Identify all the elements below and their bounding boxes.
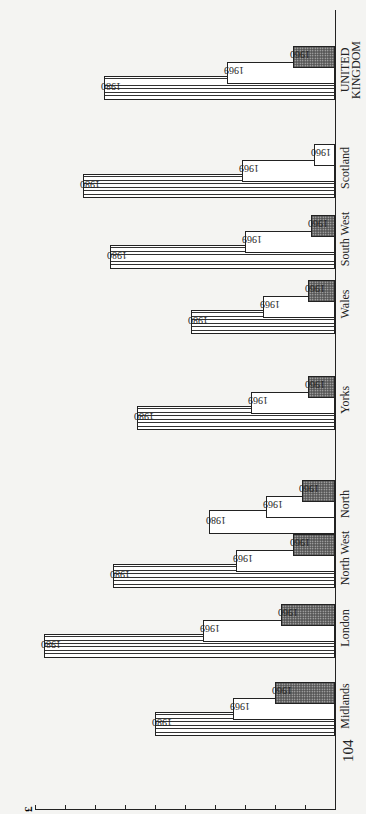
year-label-1969: 1969: [200, 623, 222, 634]
year-label-1960: 1960: [311, 147, 333, 158]
year-label-1969: 1969: [248, 395, 270, 406]
year-label-1969: 1969: [230, 701, 252, 712]
y-tick: [65, 805, 66, 810]
y-axis: [36, 809, 336, 810]
year-label-1980: 1980: [134, 411, 156, 422]
y-tick: [35, 805, 36, 810]
y-tick: [95, 805, 96, 810]
year-label-1980: 1980: [107, 250, 129, 261]
year-label-1980: 1980: [41, 639, 63, 650]
year-label-1969: 1969: [233, 553, 255, 564]
region-label: South West: [340, 199, 351, 279]
year-label-1960: 1960: [308, 218, 330, 229]
y-tick: [185, 805, 186, 810]
year-label-1980: 1980: [188, 315, 210, 326]
region-label: Midlands: [340, 666, 351, 746]
y-tick: [125, 805, 126, 810]
y-tick: [305, 805, 306, 810]
region-label: UNITED KINGDOM: [340, 30, 362, 110]
year-label-1960: 1960: [290, 537, 312, 548]
year-label-1969: 1969: [224, 65, 246, 76]
currency-unit-label: £: [22, 807, 34, 813]
year-label-1969: 1969: [260, 299, 282, 310]
year-label-1969: 1969: [263, 499, 285, 510]
year-label-1960: 1960: [278, 607, 300, 618]
region-label: London: [340, 588, 351, 668]
year-label-1960: 1960: [305, 379, 327, 390]
year-label-1980: 1980: [206, 515, 228, 526]
y-tick: [275, 805, 276, 810]
rotated-chart-stage: £ 3004005006007008009001000110012001300 …: [0, 0, 366, 814]
year-label-1980: 1980: [101, 81, 123, 92]
year-label-1969: 1969: [239, 163, 261, 174]
year-label-1960: 1960: [299, 483, 321, 494]
year-label-1969: 1969: [242, 234, 264, 245]
y-tick: [155, 805, 156, 810]
page-number: 104: [340, 740, 357, 763]
region-label: Scotland: [340, 128, 351, 208]
baseline: [335, 10, 336, 810]
year-label-1980: 1980: [152, 717, 174, 728]
region-label: Yorks: [340, 360, 351, 440]
y-tick: [215, 805, 216, 810]
year-label-1960: 1960: [290, 49, 312, 60]
year-label-1960: 1960: [272, 685, 294, 696]
year-label-1960: 1960: [305, 283, 327, 294]
y-tick: [245, 805, 246, 810]
year-label-1980: 1980: [110, 569, 132, 580]
region-label: North: [340, 464, 351, 544]
year-label-1980: 1980: [80, 179, 102, 190]
